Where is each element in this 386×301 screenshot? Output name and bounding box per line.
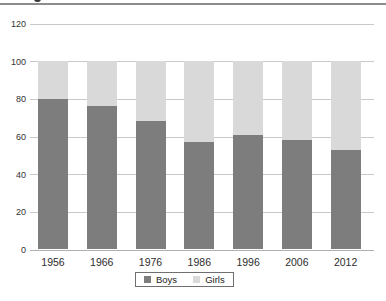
bar-segment-girls-1966 (87, 61, 117, 106)
bar-segment-boys-1976 (136, 121, 166, 249)
bar-segment-boys-2006 (282, 140, 312, 249)
bar-segment-girls-1986 (184, 61, 214, 142)
y-tick-label-120: 120 (0, 19, 26, 29)
legend-label-boys: Boys (156, 274, 177, 285)
bar-segment-girls-1976 (136, 61, 166, 121)
bar-segment-boys-1986 (184, 142, 214, 249)
legend-swatch-girls (193, 276, 200, 283)
y-tick-label-60: 60 (0, 132, 26, 142)
x-tick-label-1956: 1956 (31, 256, 75, 268)
page: 0204060801001201956196619761986199620062… (0, 0, 386, 301)
bar-segment-girls-2006 (282, 61, 312, 140)
stacked-bar-chart: 0204060801001201956196619761986199620062… (0, 0, 386, 301)
chart-legend: BoysGirls (135, 272, 234, 287)
legend-item-boys: Boys (144, 274, 177, 285)
legend-item-girls: Girls (193, 274, 225, 285)
bar-segment-boys-2012 (331, 150, 361, 250)
bar-segment-boys-1966 (87, 106, 117, 249)
x-tick-label-1976: 1976 (129, 256, 173, 268)
bar-segment-girls-2012 (331, 61, 361, 150)
bar-segment-girls-1996 (233, 61, 263, 134)
y-tick-label-0: 0 (0, 245, 26, 255)
y-tick-label-40: 40 (0, 170, 26, 180)
x-axis-line (30, 250, 374, 251)
x-tick-label-2006: 2006 (275, 256, 319, 268)
y-tick-label-80: 80 (0, 94, 26, 104)
bar-segment-boys-1996 (233, 135, 263, 250)
gridline-120 (30, 24, 374, 25)
legend-swatch-boys (144, 276, 151, 283)
x-tick-label-1966: 1966 (80, 256, 124, 268)
bar-segment-boys-1956 (38, 99, 68, 250)
x-tick-label-2012: 2012 (324, 256, 368, 268)
x-tick-label-1996: 1996 (226, 256, 270, 268)
legend-label-girls: Girls (205, 274, 225, 285)
bar-segment-girls-1956 (38, 61, 68, 99)
y-tick-label-20: 20 (0, 207, 26, 217)
y-tick-label-100: 100 (0, 57, 26, 67)
x-tick-label-1986: 1986 (177, 256, 221, 268)
